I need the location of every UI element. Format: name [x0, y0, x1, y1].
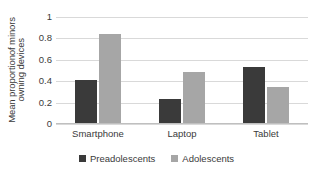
bar — [99, 34, 121, 124]
y-axis-tick-label: 0.6 — [18, 55, 52, 65]
legend-swatch-icon — [171, 155, 178, 162]
bar — [243, 67, 265, 124]
x-axis-category-label: Laptop — [140, 128, 224, 139]
legend: PreadolescentsAdolescents — [0, 154, 313, 164]
bar — [75, 80, 97, 124]
y-axis-tick-label: 0.2 — [18, 98, 52, 108]
bar-chart: Mean proportionof minors owning devices … — [0, 0, 313, 177]
x-axis-category-label: Smartphone — [56, 128, 140, 139]
legend-entry[interactable]: Adolescents — [171, 154, 234, 164]
bar — [267, 87, 289, 124]
x-axis-line — [56, 123, 308, 124]
bar — [183, 72, 205, 124]
gridline — [56, 124, 308, 125]
y-axis-tick-labels: 00.20.40.60.81 — [14, 17, 52, 124]
bar-group — [159, 17, 205, 124]
y-axis-tick-label: 0.8 — [18, 34, 52, 44]
x-axis-category-label: Tablet — [224, 128, 308, 139]
bar-group — [75, 17, 121, 124]
x-axis-category-labels: SmartphoneLaptopTablet — [56, 128, 308, 144]
legend-swatch-icon — [79, 155, 86, 162]
plot-area — [56, 17, 308, 124]
legend-label: Preadolescents — [90, 154, 155, 164]
y-axis-tick-label: 0 — [18, 119, 52, 129]
legend-label: Adolescents — [182, 154, 234, 164]
y-axis-tick-label: 0.4 — [18, 76, 52, 86]
bar-group — [243, 17, 289, 124]
legend-entry[interactable]: Preadolescents — [79, 154, 155, 164]
y-axis-tick-label: 1 — [18, 12, 52, 22]
bar — [159, 99, 181, 124]
